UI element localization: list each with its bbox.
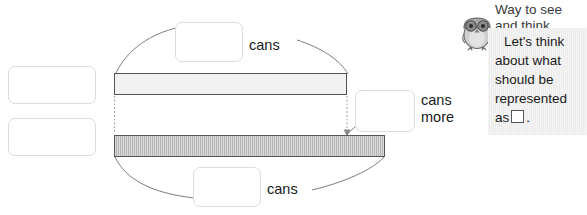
left-answer-box-top[interactable] bbox=[8, 66, 96, 104]
tape-bar-bottom bbox=[114, 135, 385, 157]
hint-body-line3: should be bbox=[495, 72, 554, 87]
hint-body-line5-prefix: as bbox=[495, 110, 509, 125]
bottom-bar-unit-label: cans bbox=[267, 181, 298, 198]
hint-panel: Way to seeand think Let's think about wh… bbox=[455, 2, 587, 142]
top-bar-unit-label: cans bbox=[249, 37, 280, 54]
hint-body-line2: about what bbox=[495, 53, 561, 68]
top-bar-answer-box[interactable] bbox=[175, 22, 243, 62]
difference-answer-box[interactable] bbox=[355, 90, 415, 132]
hint-body-line4: represented bbox=[495, 91, 567, 106]
blank-square-glyph bbox=[511, 110, 524, 123]
hint-body: Let's think about what should be represe… bbox=[495, 32, 587, 127]
left-answer-box-bottom[interactable] bbox=[8, 118, 96, 156]
difference-unit-label: cansmore bbox=[421, 92, 454, 126]
hint-body-line5-suffix: . bbox=[526, 110, 530, 125]
tape-bar-top bbox=[114, 73, 347, 95]
hint-body-line1: Let's think bbox=[504, 34, 564, 49]
bottom-bar-answer-box[interactable] bbox=[193, 167, 261, 207]
